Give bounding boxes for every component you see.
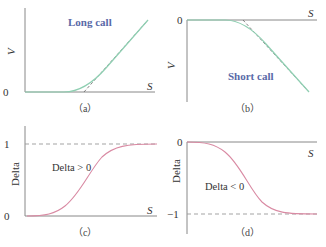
panel-d: Delta < 0 Delta 0 −1 S （d） bbox=[167, 136, 317, 238]
panel-caption: （b） bbox=[235, 103, 260, 114]
panel-title: Long call bbox=[68, 16, 112, 28]
panel-title: Short call bbox=[228, 70, 274, 82]
panel-a: Long call V 0 S （a） bbox=[3, 8, 155, 114]
origin-label: 0 bbox=[177, 14, 183, 26]
origin-label: 0 bbox=[3, 86, 9, 98]
delta-curve bbox=[187, 142, 317, 214]
asymptote-label: 1 bbox=[4, 138, 10, 150]
x-axis-label: S bbox=[147, 204, 153, 216]
figure-canvas: Long call V 0 S （a） Short call V 0 S （b）… bbox=[0, 0, 326, 247]
panel-caption: （a） bbox=[73, 103, 97, 114]
y-axis-label: V bbox=[165, 61, 177, 69]
y-axis-label: Delta bbox=[9, 162, 21, 186]
x-axis-label: S bbox=[308, 147, 314, 159]
x-axis-label: S bbox=[308, 7, 314, 19]
y-axis-label: V bbox=[5, 47, 17, 55]
panel-c: Delta > 0 Delta 1 0 S （c） bbox=[4, 126, 157, 238]
panel-b: Short call V 0 S （b） bbox=[165, 7, 317, 114]
delta-annotation: Delta > 0 bbox=[52, 162, 91, 173]
asymptote-label: −1 bbox=[167, 208, 179, 220]
delta-curve bbox=[27, 144, 157, 216]
origin-label: 0 bbox=[177, 136, 183, 148]
origin-label: 0 bbox=[4, 210, 10, 222]
delta-annotation: Delta < 0 bbox=[205, 181, 244, 192]
panel-caption: （c） bbox=[73, 227, 97, 238]
panel-caption: （d） bbox=[235, 227, 260, 238]
x-axis-label: S bbox=[147, 80, 153, 92]
value-curve bbox=[25, 20, 148, 92]
y-axis-label: Delta bbox=[170, 159, 182, 183]
